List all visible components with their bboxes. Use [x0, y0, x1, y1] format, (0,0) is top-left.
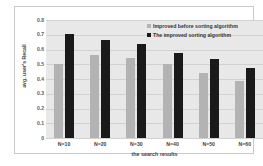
bar: [199, 73, 208, 138]
bar: [54, 64, 63, 138]
chart-legend: Improved before sorting algorithm The im…: [147, 23, 238, 38]
x-axis-tick-label: N=30: [121, 141, 151, 147]
y-axis-tick-label: 0.8: [29, 18, 44, 23]
y-axis-title: avg. user's Recall: [21, 26, 27, 106]
chart-figure: 0.80.70.60.50.40.30.20.10 N=10N=20N=30N=…: [0, 0, 263, 166]
bar: [101, 40, 110, 138]
chart-frame: 0.80.70.60.50.40.30.20.10 N=10N=20N=30N=…: [14, 6, 254, 154]
y-axis-tick-labels: 0.80.70.60.50.40.30.20.10: [29, 20, 44, 138]
bar: [174, 53, 183, 138]
x-axis-tick-label: N=50: [194, 141, 224, 147]
gridline: [46, 138, 263, 139]
legend-item: Improved before sorting algorithm: [147, 23, 238, 29]
x-axis-tick-labels: N=10N=20N=30N=40N=50N=60: [46, 141, 263, 147]
y-axis-tick-label: 0: [29, 136, 44, 141]
bar-group: [85, 20, 115, 138]
bar: [246, 68, 255, 138]
x-axis-tick-label: N=60: [230, 141, 260, 147]
bar: [235, 81, 244, 138]
y-axis-tick-label: 0.3: [29, 91, 44, 96]
bar: [163, 64, 172, 138]
bar: [126, 58, 135, 138]
y-axis-tick-label: 0.5: [29, 62, 44, 67]
y-axis-tick-label: 0.7: [29, 32, 44, 37]
x-axis-tick-label: N=10: [49, 141, 79, 147]
bar-group: [49, 20, 79, 138]
legend-item: The improved sorting algorithm: [147, 32, 238, 38]
y-axis-tick-label: 0.1: [29, 121, 44, 126]
y-axis-tick-label: 0.4: [29, 77, 44, 82]
legend-label: Improved before sorting algorithm: [153, 23, 238, 29]
y-axis-tick-label: 0.6: [29, 47, 44, 52]
x-axis-tick-label: N=20: [85, 141, 115, 147]
legend-swatch-icon: [147, 24, 151, 28]
x-axis-title: the search results: [46, 151, 263, 157]
x-axis-tick-label: N=40: [158, 141, 188, 147]
legend-swatch-icon: [147, 33, 151, 37]
bar: [210, 59, 219, 138]
bar: [90, 55, 99, 138]
bar: [137, 44, 146, 138]
y-axis-tick-label: 0.2: [29, 106, 44, 111]
bar: [65, 34, 74, 138]
legend-label: The improved sorting algorithm: [153, 32, 231, 38]
